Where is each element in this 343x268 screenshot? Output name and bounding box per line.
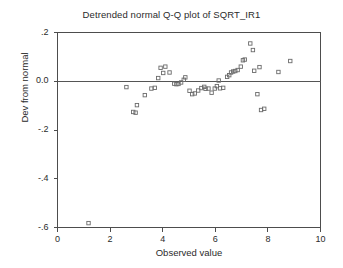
axis-frame — [58, 33, 321, 228]
data-point — [125, 85, 128, 88]
data-point — [210, 91, 213, 94]
plot-area — [0, 0, 343, 268]
y-tick-label: -.6 — [23, 222, 49, 232]
x-tick-label: 2 — [100, 234, 120, 244]
y-tick-label: -.4 — [23, 173, 49, 183]
data-point — [157, 76, 160, 79]
data-point — [188, 89, 191, 92]
x-tick-label: 4 — [153, 234, 173, 244]
data-point — [249, 42, 252, 45]
detrended-qq-plot-figure: Detrended normal Q-Q plot of SQRT_IR1 De… — [0, 0, 343, 268]
data-point — [164, 65, 167, 68]
data-point — [251, 48, 254, 51]
x-tick-label: 10 — [311, 234, 331, 244]
data-point — [150, 87, 153, 90]
x-tick-label: 0 — [48, 234, 68, 244]
tick-marks — [54, 33, 321, 232]
data-point — [153, 86, 156, 89]
data-point — [236, 68, 239, 71]
data-point — [277, 70, 280, 73]
x-tick-label: 8 — [258, 234, 278, 244]
data-point — [168, 71, 171, 74]
data-point — [162, 71, 165, 74]
data-point — [253, 69, 256, 72]
data-point — [289, 59, 292, 62]
data-point — [258, 65, 261, 68]
data-point — [239, 65, 242, 68]
data-point — [256, 92, 259, 95]
y-tick-label: -.2 — [23, 124, 49, 134]
data-point — [135, 103, 138, 106]
x-tick-label: 6 — [205, 234, 225, 244]
data-point — [159, 66, 162, 69]
data-point — [143, 93, 146, 96]
y-tick-label: .2 — [23, 27, 49, 37]
data-point — [87, 221, 90, 224]
data-point-group — [87, 42, 292, 225]
y-tick-label: 0.0 — [23, 75, 49, 85]
